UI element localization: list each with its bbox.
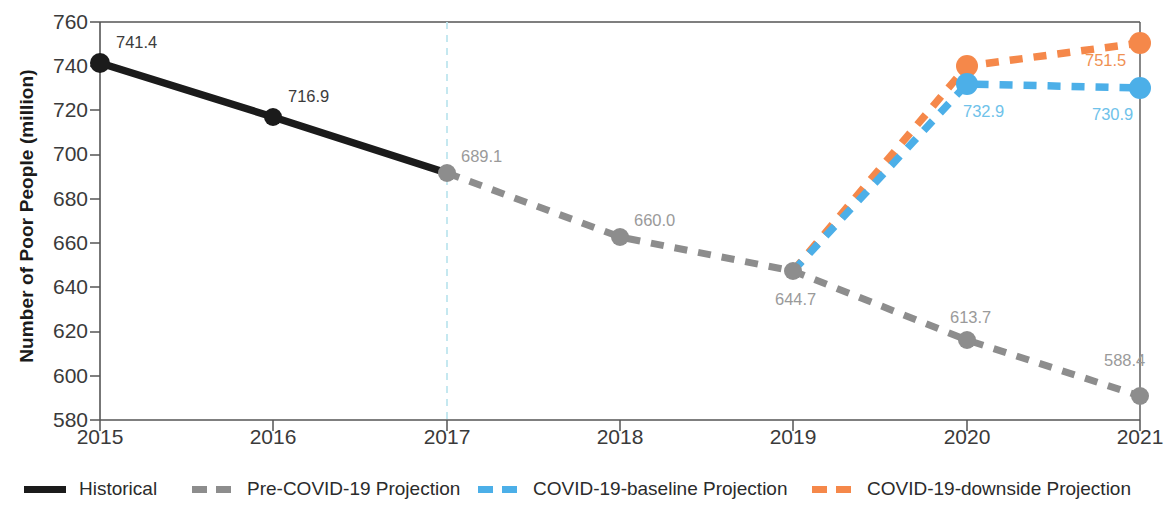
series-line-pre-covid xyxy=(447,173,1140,396)
legend-label-historical: Historical xyxy=(79,478,157,500)
data-label-2021-covid-baseline: 730.9 xyxy=(1092,106,1133,123)
legend-swatch-covid-downside-icon xyxy=(812,486,854,493)
plot-area xyxy=(0,0,1164,460)
data-label-2017-pre-covid: 689.1 xyxy=(461,148,502,165)
legend-item-covid-downside[interactable]: COVID-19-downside Projection xyxy=(812,470,1131,508)
data-label-2021-pre-covid: 588.4 xyxy=(1104,352,1145,369)
legend-item-historical[interactable]: Historical xyxy=(24,470,157,508)
legend-label-covid-baseline: COVID-19-baseline Projection xyxy=(533,478,788,500)
data-label-2015-historical: 741.4 xyxy=(116,34,157,51)
data-label-2018-pre-covid: 660.0 xyxy=(634,212,675,229)
y-tick-marks xyxy=(90,22,100,420)
chart-legend: Historical Pre-COVID-19 Projection COVID… xyxy=(0,470,1164,508)
legend-label-pre-covid: Pre-COVID-19 Projection xyxy=(247,478,460,500)
legend-label-covid-downside: COVID-19-downside Projection xyxy=(867,478,1131,500)
data-label-2021-covid-downside: 751.5 xyxy=(1085,52,1126,69)
poverty-projection-chart: Number of Poor People (million) 760 740 … xyxy=(0,0,1164,508)
legend-swatch-covid-baseline-icon xyxy=(478,486,520,493)
legend-swatch-pre-covid-icon xyxy=(192,486,234,493)
x-tick-marks xyxy=(100,420,1140,431)
data-label-2016-historical: 716.9 xyxy=(288,88,329,105)
legend-item-pre-covid[interactable]: Pre-COVID-19 Projection xyxy=(192,470,460,508)
data-label-2020-pre-covid: 613.7 xyxy=(950,309,991,326)
data-label-2020-covid-baseline: 732.9 xyxy=(963,103,1004,120)
series-markers-pre-covid xyxy=(438,164,1149,405)
legend-swatch-historical-icon xyxy=(24,486,66,493)
data-label-2019-pre-covid: 644.7 xyxy=(775,291,816,308)
legend-item-covid-baseline[interactable]: COVID-19-baseline Projection xyxy=(478,470,788,508)
